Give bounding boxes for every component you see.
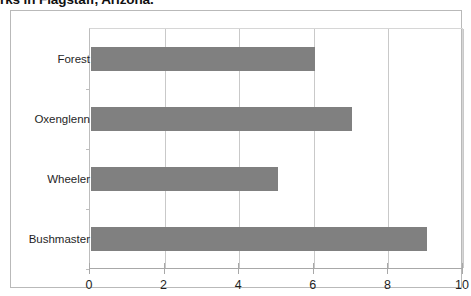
bar: [91, 167, 278, 191]
x-axis-tick: [238, 263, 239, 274]
x-axis-tick-label: 8: [367, 277, 407, 293]
x-axis-tick-label: 6: [293, 277, 333, 293]
plot-area: ForestOxenglennWheelerBushmaster: [89, 28, 463, 268]
x-axis-tick: [89, 263, 90, 274]
bar: [91, 227, 427, 251]
x-axis-tick: [313, 263, 314, 274]
category-label: Forest: [0, 52, 90, 66]
x-axis-line: [89, 268, 463, 269]
x-axis-tick: [164, 263, 165, 274]
chart-frame: ForestOxenglennWheelerBushmaster 0246810: [10, 10, 462, 288]
x-axis-tick-label: 0: [69, 277, 109, 293]
chart-title: rks in Flagstaff, Arizona.: [0, 0, 260, 9]
x-axis-tick: [462, 263, 463, 274]
chart-screenshot: rks in Flagstaff, Arizona. ForestOxengle…: [0, 0, 471, 296]
category-label: Wheeler: [0, 172, 90, 186]
category-label: Bushmaster: [0, 232, 90, 246]
x-axis-tick: [387, 263, 388, 274]
x-axis-tick-label: 10: [442, 277, 471, 293]
category-label: Oxenglenn: [0, 112, 90, 126]
gridline: [463, 29, 464, 268]
bar: [91, 107, 352, 131]
bar: [91, 47, 315, 71]
x-axis-tick-label: 4: [218, 277, 258, 293]
y-axis-category-labels: ForestOxenglennWheelerBushmaster: [0, 29, 90, 269]
x-axis-tick-label: 2: [144, 277, 184, 293]
